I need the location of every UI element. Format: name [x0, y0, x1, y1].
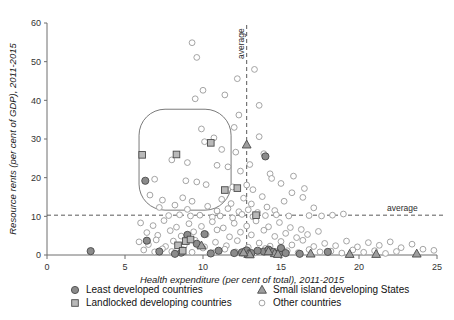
data-point [220, 225, 226, 231]
data-point [208, 140, 215, 147]
x-tick-label: 25 [432, 262, 442, 272]
data-point [183, 178, 189, 184]
data-point [188, 213, 194, 219]
data-point [289, 190, 295, 196]
data-point [248, 232, 254, 238]
data-point [296, 250, 303, 257]
data-point [306, 213, 312, 219]
legend-entry[interactable]: Small island developing States [258, 284, 410, 295]
data-point [248, 201, 254, 207]
data-point [383, 251, 389, 257]
data-point [311, 205, 317, 211]
data-point [238, 229, 244, 235]
y-axis-title: Resource rents (per cent of GDP), 2011-2… [7, 43, 18, 235]
data-point [305, 232, 311, 238]
data-point [230, 215, 236, 221]
legend-marker-icon [71, 286, 78, 293]
data-point [215, 247, 222, 254]
data-point [387, 239, 393, 245]
data-point [241, 195, 247, 201]
data-point [261, 227, 267, 233]
data-point [252, 67, 258, 73]
legend-marker-icon [258, 285, 267, 293]
data-point [156, 205, 162, 211]
y-tick-label: 20 [31, 173, 41, 183]
legend-entry[interactable]: Other countries [259, 297, 341, 308]
data-point [231, 220, 237, 226]
data-point [156, 248, 163, 255]
data-point [253, 212, 260, 219]
data-point [344, 238, 350, 244]
data-point [254, 247, 261, 254]
data-point [160, 197, 166, 203]
data-point [233, 149, 239, 155]
data-point [236, 112, 242, 118]
data-point [173, 151, 180, 158]
data-point [194, 179, 200, 185]
chart-annotations: averageaverage [47, 25, 445, 255]
legend-entry[interactable]: Landlocked developing countries [72, 297, 232, 308]
data-point [194, 55, 200, 61]
data-point [227, 234, 233, 240]
data-point [324, 248, 331, 255]
data-point [147, 192, 153, 198]
data-point [167, 228, 173, 234]
data-point [253, 218, 259, 224]
data-point [136, 239, 142, 245]
data-point [278, 239, 284, 245]
data-point [286, 213, 292, 219]
data-point [287, 225, 293, 231]
legend-entry[interactable]: Least developed countries [71, 284, 202, 295]
y-tick-label: 30 [31, 134, 41, 144]
data-point [172, 202, 178, 208]
data-point [186, 221, 192, 227]
data-point [263, 213, 269, 219]
x-tick-label: 15 [276, 262, 286, 272]
data-point [166, 213, 172, 219]
data-point [333, 243, 339, 249]
data-point [141, 247, 147, 253]
legend-marker-icon [72, 300, 79, 307]
horizontal-average-label: average [387, 203, 418, 213]
data-point [219, 196, 225, 202]
data-point [283, 230, 289, 236]
data-point [244, 223, 250, 229]
data-point [256, 102, 262, 108]
data-point [302, 186, 308, 192]
data-point [203, 182, 209, 188]
data-point [231, 125, 237, 131]
data-point [250, 187, 256, 193]
data-point [245, 207, 251, 213]
data-point [150, 223, 156, 229]
data-point [225, 164, 231, 170]
data-point [269, 176, 275, 182]
y-tick-label: 0 [36, 250, 41, 260]
data-point [234, 76, 240, 82]
x-tick-label: 10 [198, 262, 208, 272]
x-tick-label: 20 [354, 262, 364, 272]
legend-marker-icon [259, 300, 265, 306]
data-point [217, 213, 223, 219]
data-point [431, 247, 437, 253]
legend-entry-label: Other countries [273, 297, 341, 308]
data-point [189, 198, 195, 204]
chart-canvas: 0102030405060 0510152025 averageaverage … [0, 0, 454, 320]
scatter-chart-figure: 0102030405060 0510152025 averageaverage … [0, 0, 454, 320]
data-point [281, 198, 287, 204]
data-point [177, 212, 183, 218]
data-point [174, 224, 180, 230]
data-point [256, 240, 262, 246]
chart-legend: Least developed countriesLandlocked deve… [71, 284, 409, 308]
data-point [365, 240, 371, 246]
series-other-countries [136, 40, 437, 257]
data-point [330, 212, 336, 218]
data-point [185, 206, 191, 212]
data-point [322, 241, 328, 247]
data-point [214, 227, 220, 233]
data-point [234, 185, 241, 192]
data-point [420, 246, 426, 252]
data-point [339, 250, 345, 256]
y-tick-label: 60 [31, 18, 41, 28]
data-point [244, 182, 250, 188]
data-point [199, 126, 205, 132]
